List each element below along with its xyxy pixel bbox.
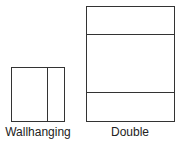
wallhanging-divider <box>47 68 48 121</box>
wallhanging-label: Wallhanging <box>0 125 76 139</box>
double-bottom-divider <box>87 92 174 93</box>
double-label: Double <box>100 125 160 139</box>
double-top-divider <box>87 34 174 35</box>
wallhanging-shape <box>11 67 65 122</box>
double-shape <box>86 6 175 122</box>
